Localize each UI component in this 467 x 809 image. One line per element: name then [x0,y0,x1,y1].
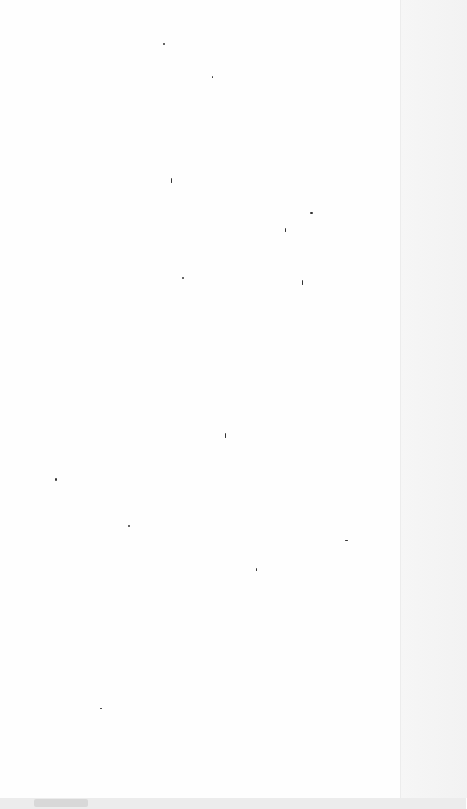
speck [182,277,184,279]
page-right-edge [400,0,467,798]
speck [310,212,313,214]
speck [285,228,286,232]
bottom-smudge [34,799,88,807]
speck [345,540,348,541]
speck [171,178,172,183]
speck [128,525,130,527]
speck [163,43,165,45]
speck [225,433,226,438]
speck [55,478,57,481]
speck [256,568,257,571]
speck [100,708,102,709]
speck [302,280,303,285]
speck [212,76,213,78]
